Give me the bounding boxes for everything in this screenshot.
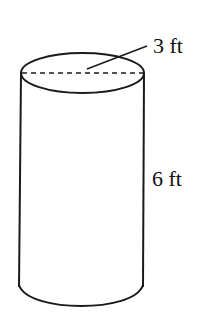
diameter-leader-line bbox=[87, 46, 147, 69]
height-label: 6 ft bbox=[152, 166, 182, 191]
cylinder-left-side bbox=[19, 73, 21, 287]
cylinder-right-side bbox=[143, 73, 144, 287]
cylinder-diagram: 3 ft 6 ft bbox=[0, 0, 217, 322]
cylinder-bottom-arc bbox=[19, 285, 143, 306]
diameter-label: 3 ft bbox=[153, 33, 183, 58]
